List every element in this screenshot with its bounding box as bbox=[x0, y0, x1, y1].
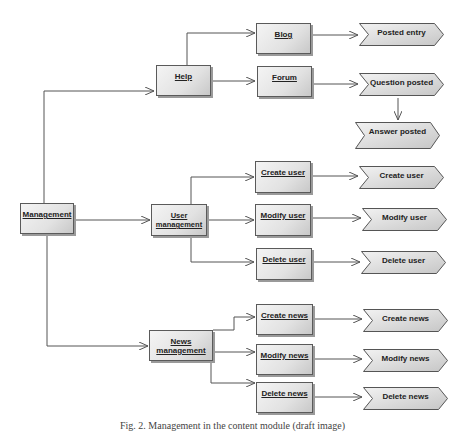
function-modify-user[interactable]: Modify user bbox=[255, 204, 311, 236]
event-label: Modify user bbox=[362, 213, 447, 222]
function-label: Blog bbox=[275, 30, 293, 39]
function-forum[interactable]: Forum bbox=[257, 66, 312, 97]
function-delete-news[interactable]: Delete news bbox=[256, 382, 313, 413]
event-modify-news[interactable]: Modify news bbox=[363, 349, 448, 371]
function-label: Delete news bbox=[261, 389, 307, 398]
function-management[interactable]: Management bbox=[20, 203, 74, 234]
event-answer-posted[interactable]: Answer posted bbox=[355, 122, 440, 144]
event-modify-user[interactable]: Modify user bbox=[362, 208, 447, 230]
function-label: Create user bbox=[261, 168, 305, 177]
event-posted-entry[interactable]: Posted entry bbox=[359, 23, 444, 45]
event-label: Answer posted bbox=[355, 127, 440, 136]
function-news-management[interactable]: News management bbox=[149, 330, 213, 361]
event-label: Modify news bbox=[363, 354, 448, 363]
event-label: Delete user bbox=[361, 256, 446, 265]
function-label: Delete user bbox=[262, 255, 305, 264]
event-delete-news[interactable]: Delete news bbox=[363, 387, 448, 409]
function-label: Forum bbox=[272, 73, 297, 82]
event-label: Create user bbox=[359, 171, 444, 180]
function-create-news[interactable]: Create news bbox=[256, 304, 313, 335]
function-delete-user[interactable]: Delete user bbox=[256, 248, 312, 280]
event-label: Posted entry bbox=[359, 28, 444, 37]
event-label: Create news bbox=[363, 314, 448, 323]
function-label: News management bbox=[156, 337, 205, 355]
function-blog[interactable]: Blog bbox=[256, 23, 311, 54]
event-delete-user[interactable]: Delete user bbox=[361, 251, 446, 273]
event-question-posted[interactable]: Question posted bbox=[359, 73, 444, 95]
figure-caption: Fig. 2. Management in the content module… bbox=[0, 420, 465, 431]
function-create-user[interactable]: Create user bbox=[255, 161, 311, 193]
function-label: Modify user bbox=[261, 211, 306, 220]
function-modify-news[interactable]: Modify news bbox=[256, 344, 313, 375]
function-label: Management bbox=[23, 210, 72, 219]
function-label: Modify news bbox=[260, 351, 308, 360]
function-user-management[interactable]: User management bbox=[151, 204, 207, 236]
function-label: Create news bbox=[261, 311, 308, 320]
function-help[interactable]: Help bbox=[156, 65, 211, 96]
event-label: Question posted bbox=[359, 78, 444, 87]
function-label: Help bbox=[175, 72, 192, 81]
event-create-news[interactable]: Create news bbox=[363, 309, 448, 331]
event-label: Delete news bbox=[363, 392, 448, 401]
function-label: User management bbox=[156, 211, 202, 229]
event-create-user[interactable]: Create user bbox=[359, 166, 444, 188]
